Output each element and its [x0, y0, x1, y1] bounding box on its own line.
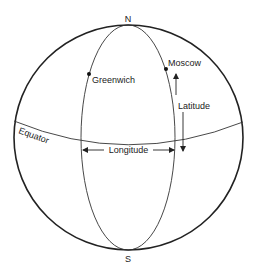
greenwich-point [87, 72, 91, 76]
globe-diagram: N S Greenwich Moscow Latitude Longitude … [0, 0, 255, 273]
north-pole-label: N [125, 14, 132, 24]
moscow-label: Moscow [168, 58, 202, 68]
longitude-label: Longitude [109, 145, 149, 155]
meridian-ellipse [81, 25, 175, 250]
south-pole-label: S [125, 254, 131, 264]
greenwich-label: Greenwich [92, 75, 135, 85]
latitude-label: Latitude [178, 101, 210, 111]
